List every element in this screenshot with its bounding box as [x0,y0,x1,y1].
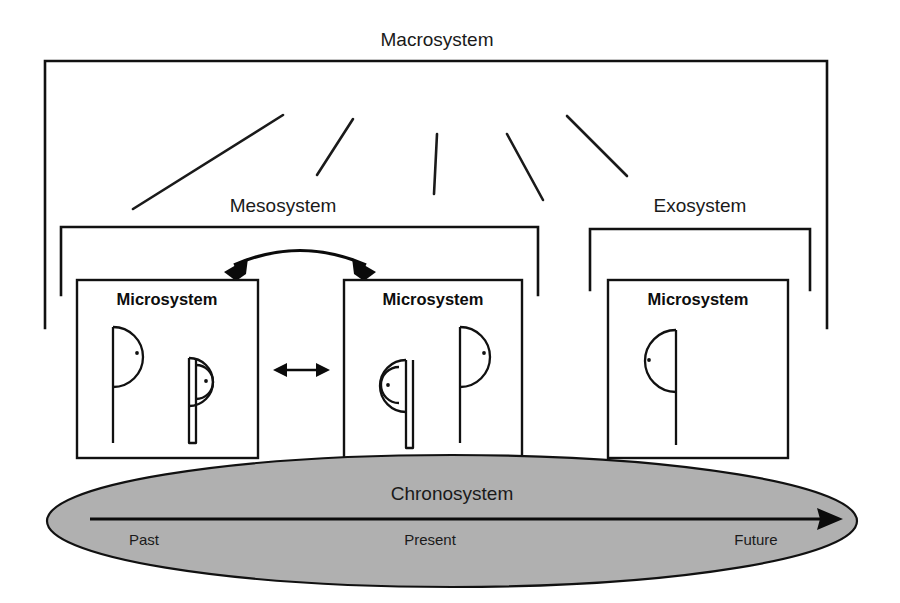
mesosystem-curved-arrow [224,251,376,282]
diagram-canvas: Macrosystem Mesosystem Exosystem [0,0,900,603]
exosystem-group: Exosystem [590,195,810,290]
macrosystem-label: Macrosystem [381,29,494,50]
microsystem-2-label: Microsystem [383,290,484,308]
macrosystem-ray-5 [567,116,627,176]
curved-arrow-shaft [234,251,366,266]
timeline-present-label: Present [404,531,457,548]
ecological-systems-diagram: Macrosystem Mesosystem Exosystem [0,0,900,603]
microsystem-box-3: Microsystem [608,280,788,458]
macrosystem-ray-4 [507,134,543,200]
person-4-eye [482,351,486,355]
chronosystem-ellipse [47,455,857,587]
microsystem-1-label: Microsystem [117,290,218,308]
person-1-eye [135,351,139,355]
person-3-eye [386,383,390,387]
person-5-eye [647,358,651,362]
exosystem-label: Exosystem [654,195,747,216]
macrosystem-rays-group [133,115,627,209]
microsystem-3-label: Microsystem [648,290,749,308]
macrosystem-ray-2 [317,119,353,175]
timeline-past-label: Past [129,531,160,548]
mesosystem-label: Mesosystem [230,195,337,216]
microsystem-box-1: Microsystem [77,280,258,458]
macrosystem-ray-3 [434,134,437,194]
microsystem-box-2: Microsystem [344,280,522,458]
link-arrow-head-left [273,363,287,377]
chronosystem-group: Chronosystem Past Present Future [47,455,857,587]
timeline-future-label: Future [734,531,777,548]
link-arrow-head-right [316,363,330,377]
microsystem-link-arrow [273,363,330,377]
curved-arrow-head-left [224,258,248,281]
curved-arrow-head-right [352,258,376,281]
chronosystem-label: Chronosystem [391,483,514,504]
person-2-eye [204,379,208,383]
